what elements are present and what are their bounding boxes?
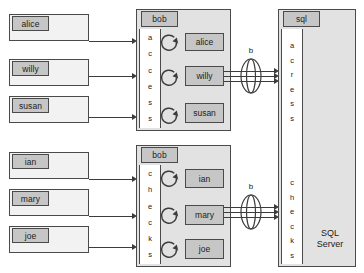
vertical-letter: a	[148, 34, 152, 42]
circular-arrow-icon	[159, 169, 181, 190]
session-box-ian[interactable]: ian	[185, 169, 224, 188]
vertical-letter: s	[290, 100, 294, 108]
circular-arrow-icon	[159, 68, 181, 89]
connector-susan	[89, 117, 133, 118]
diagram-canvas: alice willy susan a c c e s s bob	[0, 0, 364, 273]
client-label-willy: willy	[12, 61, 49, 76]
vertical-letter: c	[148, 50, 152, 58]
vertical-letter: s	[148, 115, 152, 123]
vertical-letter: h	[148, 186, 152, 194]
session-box-mary[interactable]: mary	[185, 205, 224, 225]
vertical-letter: c	[148, 219, 152, 227]
vertical-letter: e	[148, 83, 152, 91]
connector-mary	[89, 216, 133, 217]
session-box-alice[interactable]: alice	[185, 33, 224, 51]
circular-arrow-icon	[159, 33, 181, 54]
vertical-letter: s	[290, 115, 294, 123]
vertical-letter: c	[290, 223, 294, 231]
vertical-letter: c	[290, 57, 294, 65]
vertical-letter: h	[290, 194, 294, 202]
bundle-label-b-access: b	[244, 46, 258, 55]
vertical-label-checks: c h e c k s	[139, 170, 161, 259]
connector-willy	[89, 76, 133, 77]
sql-vertical-label-checks: c h e c k s	[281, 179, 303, 259]
connector-joe	[89, 247, 133, 248]
vertical-letter: e	[148, 203, 152, 211]
client-label-susan: susan	[12, 98, 49, 113]
sql-server-name: SQL Server	[306, 228, 354, 251]
session-box-willy[interactable]: willy	[185, 66, 224, 86]
session-box-joe[interactable]: joe	[185, 239, 224, 259]
vertical-letter: r	[291, 71, 294, 79]
middle-tab-bob-access: bob	[141, 11, 178, 27]
circular-arrow-icon	[159, 240, 181, 261]
vertical-letter: a	[290, 42, 294, 50]
session-box-susan[interactable]: susan	[185, 103, 224, 123]
vertical-letter: e	[290, 86, 294, 94]
arrow-bundle-icon	[240, 194, 262, 230]
circular-arrow-icon	[159, 206, 181, 227]
vertical-letter: e	[290, 208, 294, 216]
client-label-mary: mary	[12, 191, 49, 206]
arrow-bundle-icon	[240, 58, 262, 94]
vertical-label-access: a c c e s s	[139, 34, 161, 123]
client-label-alice: alice	[12, 16, 49, 31]
vertical-letter: s	[148, 99, 152, 107]
circular-arrow-icon	[159, 106, 181, 127]
bundle-label-b-checks: b	[244, 182, 258, 191]
vertical-letter: k	[290, 237, 294, 245]
client-label-joe: joe	[12, 228, 49, 243]
middle-tab-bob-checks: bob	[141, 147, 178, 163]
sql-tab-label: sql	[283, 11, 320, 27]
sql-vertical-label-access: a c r e s s	[281, 42, 303, 122]
vertical-letter: c	[148, 67, 152, 75]
connector-ian	[89, 179, 133, 180]
vertical-letter: s	[148, 251, 152, 259]
vertical-letter: s	[290, 252, 294, 260]
vertical-letter: c	[148, 170, 152, 178]
vertical-letter: k	[148, 235, 152, 243]
vertical-letter: c	[290, 179, 294, 187]
connector-alice	[89, 41, 133, 42]
client-label-ian: ian	[12, 154, 49, 169]
